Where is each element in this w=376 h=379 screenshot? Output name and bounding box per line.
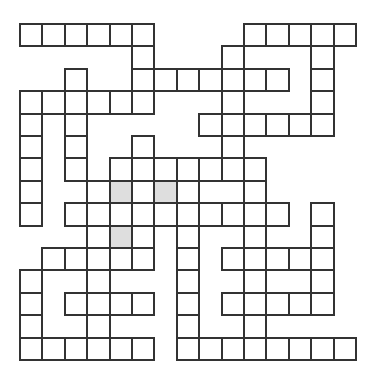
grid-cell[interactable] — [131, 180, 155, 204]
grid-cell[interactable] — [288, 23, 312, 47]
grid-cell[interactable] — [310, 113, 334, 137]
grid-cell[interactable] — [131, 292, 155, 316]
grid-cell[interactable] — [243, 23, 267, 47]
grid-cell[interactable] — [109, 90, 133, 114]
grid-cell[interactable] — [131, 23, 155, 47]
grid-cell[interactable] — [176, 292, 200, 316]
grid-cell[interactable] — [310, 23, 334, 47]
grid-cell[interactable] — [131, 225, 155, 249]
grid-cell[interactable] — [198, 337, 222, 361]
grid-cell[interactable] — [41, 90, 65, 114]
grid-cell[interactable] — [243, 113, 267, 137]
grid-cell[interactable] — [176, 337, 200, 361]
grid-cell[interactable] — [310, 90, 334, 114]
grid-cell[interactable] — [64, 247, 88, 271]
grid-cell[interactable] — [198, 113, 222, 137]
grid-cell[interactable] — [86, 292, 110, 316]
grid-cell[interactable] — [221, 135, 245, 159]
grid-cell[interactable] — [86, 247, 110, 271]
grid-cell[interactable] — [265, 292, 289, 316]
grid-cell[interactable] — [243, 314, 267, 338]
grid-cell[interactable] — [86, 314, 110, 338]
grid-cell[interactable] — [19, 337, 43, 361]
grid-cell[interactable] — [131, 90, 155, 114]
grid-cell[interactable] — [310, 292, 334, 316]
grid-cell[interactable] — [19, 113, 43, 137]
grid-cell[interactable] — [221, 113, 245, 137]
grid-cell[interactable] — [265, 68, 289, 92]
grid-cell[interactable] — [221, 68, 245, 92]
grid-cell[interactable] — [243, 225, 267, 249]
grid-cell[interactable] — [131, 45, 155, 69]
grid-cell[interactable] — [176, 157, 200, 181]
grid-cell[interactable] — [243, 337, 267, 361]
grid-cell[interactable] — [310, 202, 334, 226]
grid-cell[interactable] — [19, 292, 43, 316]
grid-cell[interactable] — [41, 247, 65, 271]
grid-cell[interactable] — [109, 247, 133, 271]
grid-cell[interactable] — [153, 202, 177, 226]
grid-cell[interactable] — [198, 157, 222, 181]
grid-cell[interactable] — [131, 135, 155, 159]
grid-cell[interactable] — [131, 68, 155, 92]
grid-cell[interactable] — [265, 23, 289, 47]
grid-cell[interactable] — [310, 337, 334, 361]
grid-cell[interactable] — [64, 23, 88, 47]
grid-cell[interactable] — [153, 68, 177, 92]
grid-cell[interactable] — [243, 180, 267, 204]
grid-cell[interactable] — [19, 314, 43, 338]
grid-cell[interactable] — [310, 225, 334, 249]
grid-cell[interactable] — [176, 68, 200, 92]
grid-cell[interactable] — [221, 90, 245, 114]
grid-cell[interactable] — [64, 90, 88, 114]
grid-cell[interactable] — [109, 202, 133, 226]
grid-cell[interactable] — [64, 157, 88, 181]
grid-cell[interactable] — [176, 180, 200, 204]
grid-cell[interactable] — [221, 337, 245, 361]
grid-cell[interactable] — [265, 202, 289, 226]
grid-cell[interactable] — [221, 45, 245, 69]
grid-cell[interactable] — [19, 269, 43, 293]
grid-cell[interactable] — [64, 113, 88, 137]
grid-cell[interactable] — [265, 337, 289, 361]
grid-cell[interactable] — [19, 202, 43, 226]
grid-cell[interactable] — [131, 157, 155, 181]
grid-cell[interactable] — [243, 292, 267, 316]
grid-cell[interactable] — [243, 269, 267, 293]
grid-cell[interactable] — [333, 23, 357, 47]
grid-cell[interactable] — [176, 225, 200, 249]
grid-cell[interactable] — [198, 68, 222, 92]
grid-cell[interactable] — [86, 225, 110, 249]
grid-cell[interactable] — [109, 157, 133, 181]
grid-cell[interactable] — [221, 202, 245, 226]
grid-cell[interactable] — [176, 202, 200, 226]
grid-cell[interactable] — [109, 292, 133, 316]
grid-cell[interactable] — [265, 247, 289, 271]
grid-cell[interactable] — [41, 337, 65, 361]
shaded-grid-cell[interactable] — [153, 180, 177, 204]
grid-cell[interactable] — [221, 247, 245, 271]
grid-cell[interactable] — [64, 135, 88, 159]
grid-cell[interactable] — [153, 157, 177, 181]
grid-cell[interactable] — [19, 90, 43, 114]
grid-cell[interactable] — [333, 337, 357, 361]
grid-cell[interactable] — [64, 337, 88, 361]
grid-cell[interactable] — [86, 90, 110, 114]
grid-cell[interactable] — [221, 292, 245, 316]
grid-cell[interactable] — [109, 23, 133, 47]
grid-cell[interactable] — [288, 292, 312, 316]
shaded-grid-cell[interactable] — [109, 180, 133, 204]
grid-cell[interactable] — [176, 314, 200, 338]
grid-cell[interactable] — [176, 269, 200, 293]
grid-cell[interactable] — [19, 23, 43, 47]
grid-cell[interactable] — [131, 202, 155, 226]
grid-cell[interactable] — [64, 202, 88, 226]
grid-cell[interactable] — [19, 157, 43, 181]
grid-cell[interactable] — [310, 45, 334, 69]
grid-cell[interactable] — [86, 269, 110, 293]
grid-cell[interactable] — [243, 157, 267, 181]
grid-cell[interactable] — [288, 113, 312, 137]
grid-cell[interactable] — [198, 202, 222, 226]
grid-cell[interactable] — [131, 337, 155, 361]
grid-cell[interactable] — [221, 157, 245, 181]
